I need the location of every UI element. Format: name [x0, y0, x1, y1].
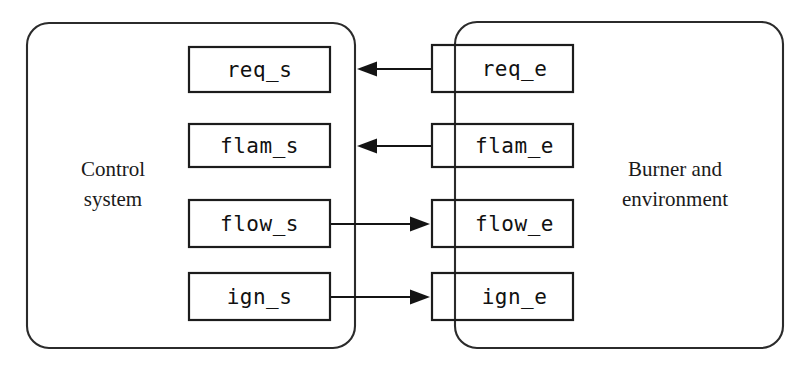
arrowhead-icon-req-e-to-req-s: [357, 62, 377, 77]
signal-box-req-e[interactable]: req_e: [432, 45, 573, 92]
signal-box-flam-e[interactable]: flam_e: [432, 124, 573, 167]
connector-flam-e-to-flam-s: [357, 139, 432, 154]
signal-box-flow-s[interactable]: flow_s: [189, 200, 330, 247]
signal-label-flow-s: flow_s: [220, 212, 299, 236]
signal-box-ign-s[interactable]: ign_s: [189, 273, 330, 320]
container-label-control-system-line2: system: [84, 187, 142, 211]
connector-flow-s-to-flow-e: [330, 217, 430, 232]
container-labels-layer: ControlsystemBurner andenvironment: [81, 157, 728, 211]
containers-layer: [27, 22, 783, 348]
container-label-control-system-line1: Control: [81, 157, 145, 181]
signal-box-flam-s[interactable]: flam_s: [189, 124, 330, 167]
container-label-burner-environment-line1: Burner and: [628, 157, 722, 181]
signal-label-req-e: req_e: [482, 57, 548, 81]
signal-label-ign-s: ign_s: [227, 285, 293, 309]
signal-interface-diagram: req_sflam_sflow_sign_sreq_eflam_eflow_ei…: [0, 0, 807, 367]
signal-label-req-s: req_s: [227, 58, 293, 82]
signal-label-flam-s: flam_s: [220, 134, 299, 158]
signal-box-ign-e[interactable]: ign_e: [432, 273, 573, 320]
arrowhead-icon-flam-e-to-flam-s: [357, 139, 377, 154]
signal-label-ign-e: ign_e: [482, 285, 548, 309]
signal-box-flow-e[interactable]: flow_e: [432, 200, 573, 247]
container-label-burner-environment-line2: environment: [622, 187, 728, 211]
connector-req-e-to-req-s: [357, 62, 432, 77]
arrowhead-icon-ign-s-to-ign-e: [410, 290, 430, 305]
arrowhead-icon-flow-s-to-flow-e: [410, 217, 430, 232]
signal-label-flow-e: flow_e: [475, 212, 554, 236]
signal-label-flam-e: flam_e: [475, 134, 554, 158]
signal-box-req-s[interactable]: req_s: [189, 47, 330, 92]
connector-ign-s-to-ign-e: [330, 290, 430, 305]
boxes-layer: req_sflam_sflow_sign_sreq_eflam_eflow_ei…: [189, 45, 573, 320]
diagram-canvas: req_sflam_sflow_sign_sreq_eflam_eflow_ei…: [0, 0, 807, 367]
connectors-layer: [330, 62, 432, 305]
